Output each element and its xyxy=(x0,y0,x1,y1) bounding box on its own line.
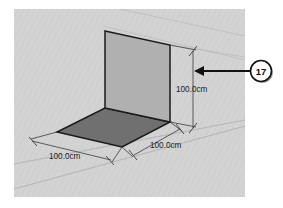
wall-panel-face xyxy=(105,31,170,122)
dimension-width-label: 100.0cm xyxy=(49,152,81,161)
callout-badge-number: 17 xyxy=(256,66,267,77)
dimension-height-label: 100.0cm xyxy=(176,85,208,94)
figure-root: 100.0cm 100.0cm 100.0cm xyxy=(0,0,283,208)
dimension-figure-canvas: 100.0cm 100.0cm 100.0cm xyxy=(0,0,283,208)
callout-17[interactable]: 17 xyxy=(251,61,274,84)
dimension-depth-label: 100.0cm xyxy=(150,141,182,150)
wall-panel[interactable] xyxy=(105,31,170,122)
